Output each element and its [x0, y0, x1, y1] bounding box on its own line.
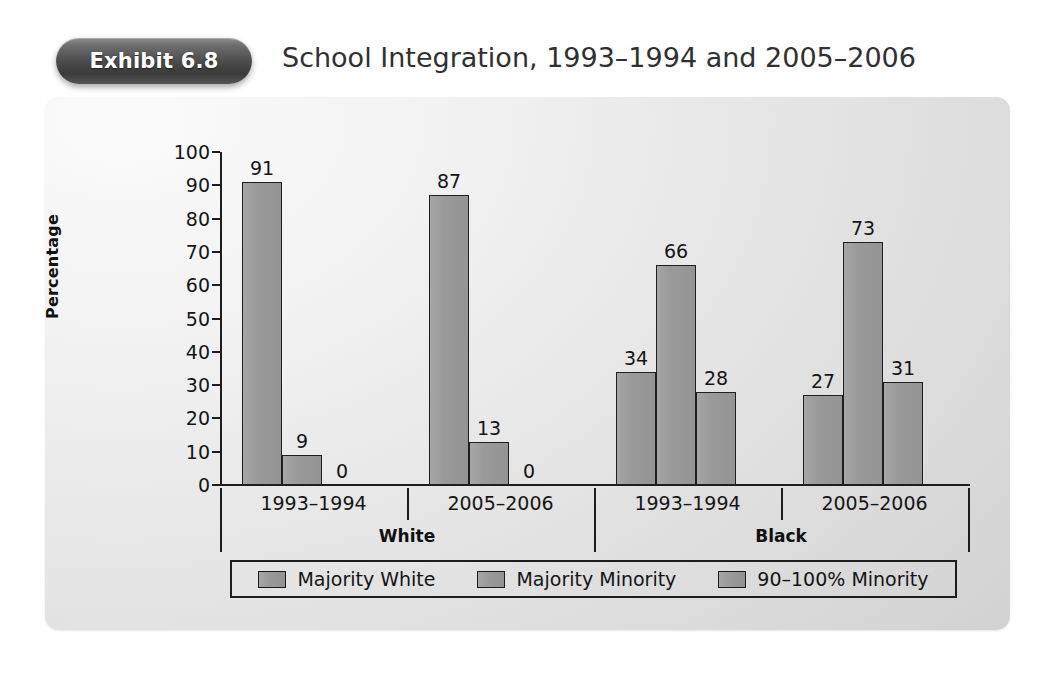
y-axis-tick: [212, 417, 220, 419]
x-axis-period-cell: 1993–1994: [220, 486, 407, 520]
y-axis-tick-label: 60: [164, 274, 210, 296]
legend-item: Majority White: [258, 568, 435, 590]
y-axis-tick-label: 50: [164, 308, 210, 330]
y-axis-tick-label: 40: [164, 341, 210, 363]
legend-swatch-icon: [718, 571, 746, 588]
bar: [843, 242, 883, 485]
x-axis-group-cell: White: [220, 520, 594, 552]
plot-area: 919087130346628277331: [220, 152, 968, 485]
bar-value-label: 91: [250, 157, 274, 179]
y-axis-tick-label: 80: [164, 208, 210, 230]
bar-value-label: 13: [477, 417, 501, 439]
y-axis-tick-label: 30: [164, 374, 210, 396]
bar-value-label: 73: [851, 217, 875, 239]
page-title: School Integration, 1993–1994 and 2005–2…: [282, 42, 916, 73]
y-axis-tick-label: 20: [164, 407, 210, 429]
bar-value-label: 0: [523, 460, 535, 482]
y-axis-tick: [212, 451, 220, 453]
bar: [242, 182, 282, 485]
y-axis-tick-label: 10: [164, 441, 210, 463]
y-axis-tick: [212, 484, 220, 486]
bar: [883, 382, 923, 485]
y-axis-tick: [212, 151, 220, 153]
x-axis-period-label: 1993–1994: [260, 492, 366, 514]
y-axis-tick: [212, 184, 220, 186]
bar-value-label: 28: [704, 367, 728, 389]
bar-value-label: 9: [296, 430, 308, 452]
x-axis-period-cell: 2005–2006: [781, 486, 968, 520]
bar-value-label: 34: [624, 347, 648, 369]
x-axis-group-separator: [594, 488, 596, 552]
bar-value-label: 87: [437, 170, 461, 192]
legend-label: Majority White: [297, 568, 435, 590]
bar: [429, 195, 469, 485]
bar: [803, 395, 843, 485]
x-axis-group-label: White: [379, 526, 435, 546]
y-axis-tick: [212, 318, 220, 320]
legend-label: Majority Minority: [516, 568, 676, 590]
x-axis-group-cell: Black: [594, 520, 968, 552]
bar-value-label: 66: [664, 240, 688, 262]
y-axis-tick: [212, 384, 220, 386]
legend-swatch-icon: [477, 571, 505, 588]
y-axis-tick: [212, 284, 220, 286]
y-axis-tick: [212, 351, 220, 353]
x-axis-group-label: Black: [755, 526, 807, 546]
exhibit-badge: Exhibit 6.8: [56, 38, 252, 84]
x-axis-period-label: 2005–2006: [447, 492, 553, 514]
x-axis-period-cell: 1993–1994: [594, 486, 781, 520]
chart-panel: Percentage 0102030405060708090100 919087…: [45, 97, 1010, 630]
y-axis-tick-label: 90: [164, 174, 210, 196]
x-axis-labels: 1993–19942005–20061993–19942005–2006Whit…: [220, 486, 970, 556]
x-axis-period-label: 2005–2006: [821, 492, 927, 514]
x-axis-period-separator: [407, 488, 409, 520]
x-axis-boundary-tick: [968, 488, 970, 552]
x-axis-period-separator: [781, 488, 783, 520]
y-axis-tick-label: 0: [164, 474, 210, 496]
bar: [696, 392, 736, 485]
x-axis-period-label: 1993–1994: [634, 492, 740, 514]
bar-value-label: 27: [811, 370, 835, 392]
bar: [469, 442, 509, 485]
y-axis-title: Percentage: [43, 214, 62, 319]
legend-item: 90–100% Minority: [718, 568, 928, 590]
x-axis-boundary-tick: [220, 488, 222, 552]
y-axis-tick: [212, 251, 220, 253]
legend-item: Majority Minority: [477, 568, 676, 590]
legend-swatch-icon: [258, 571, 286, 588]
x-axis-period-cell: 2005–2006: [407, 486, 594, 520]
exhibit-header: Exhibit 6.8 School Integration, 1993–199…: [0, 0, 1062, 100]
y-axis-tick-label: 70: [164, 241, 210, 263]
bar-value-label: 31: [891, 357, 915, 379]
bar-value-label: 0: [336, 460, 348, 482]
exhibit-badge-label: Exhibit 6.8: [89, 49, 218, 73]
legend-label: 90–100% Minority: [757, 568, 928, 590]
bar: [656, 265, 696, 485]
y-axis-tick-label: 100: [164, 141, 210, 163]
y-axis-tick: [212, 218, 220, 220]
bar: [616, 372, 656, 485]
bar: [282, 455, 322, 485]
chart-legend: Majority WhiteMajority Minority90–100% M…: [230, 560, 957, 598]
